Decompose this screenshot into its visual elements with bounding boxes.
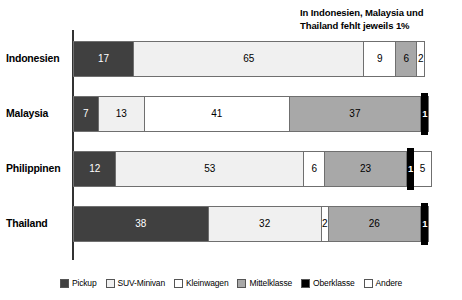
segment-value: 1 bbox=[422, 109, 427, 119]
segment-value: 5 bbox=[420, 164, 426, 174]
stacked-bar: 71341371 bbox=[73, 96, 429, 132]
segment-value: 23 bbox=[360, 164, 371, 174]
bar-segment-suv: 32 bbox=[209, 207, 322, 241]
bar-row-label: Philippinen bbox=[0, 148, 68, 188]
bar-segment-klein: 2 bbox=[322, 207, 329, 241]
stacked-bar: 38322261 bbox=[73, 206, 429, 242]
legend-label: Pickup bbox=[72, 278, 97, 288]
segment-value: 9 bbox=[377, 54, 383, 64]
chart-annotation: In Indonesien, Malaysia und Thailand feh… bbox=[300, 7, 460, 33]
stacked-bar: 125362315 bbox=[73, 151, 432, 187]
bar-segment-pickup: 38 bbox=[74, 207, 209, 241]
segment-value: 1 bbox=[422, 219, 427, 229]
stacked-bar-chart: In Indonesien, Malaysia und Thailand feh… bbox=[0, 0, 462, 300]
segment-value: 37 bbox=[349, 109, 360, 119]
bar-segment-pickup: 7 bbox=[74, 97, 99, 131]
legend-item-klein[interactable]: Kleinwagen bbox=[174, 278, 228, 288]
segment-value: 6 bbox=[311, 164, 317, 174]
segment-value: 2 bbox=[418, 54, 424, 64]
legend-item-mittel[interactable]: Mittelklasse bbox=[237, 278, 292, 288]
legend-item-andere[interactable]: Andere bbox=[364, 278, 403, 288]
legend-item-ober[interactable]: Oberklasse bbox=[301, 278, 355, 288]
bar-segment-ober: 1 bbox=[421, 203, 428, 245]
bar-row-label: Malaysia bbox=[0, 93, 68, 133]
legend-item-suv[interactable]: SUV-Minivan bbox=[106, 278, 165, 288]
legend-label: Mittelklasse bbox=[249, 278, 292, 288]
bar-row: Indonesien1765962 bbox=[0, 38, 462, 78]
chart-legend: PickupSUV-MinivanKleinwagenMittelklasseO… bbox=[0, 272, 462, 294]
legend-label: SUV-Minivan bbox=[118, 278, 165, 288]
bar-segment-mittel: 6 bbox=[396, 42, 417, 76]
segment-value: 38 bbox=[135, 219, 146, 229]
legend-swatch-andere-icon bbox=[364, 279, 373, 288]
bar-row: Philippinen125362315 bbox=[0, 148, 462, 188]
bar-segment-andere: 5 bbox=[414, 152, 432, 186]
bar-segment-ober: 1 bbox=[421, 93, 428, 135]
segment-value: 6 bbox=[403, 54, 409, 64]
bar-segment-klein: 41 bbox=[145, 97, 290, 131]
segment-value: 13 bbox=[116, 109, 127, 119]
bar-row-label: Thailand bbox=[0, 203, 68, 243]
segment-value: 1 bbox=[408, 164, 413, 174]
legend-label: Andere bbox=[376, 278, 403, 288]
bar-segment-mittel: 23 bbox=[325, 152, 406, 186]
bar-segment-suv: 13 bbox=[99, 97, 145, 131]
segment-value: 17 bbox=[98, 54, 109, 64]
segment-value: 65 bbox=[243, 54, 254, 64]
segment-value: 12 bbox=[89, 164, 100, 174]
bar-segment-andere: 2 bbox=[417, 42, 424, 76]
bar-segment-suv: 53 bbox=[116, 152, 304, 186]
segment-value: 7 bbox=[83, 109, 89, 119]
legend-swatch-klein-icon bbox=[174, 279, 183, 288]
bar-row-label: Indonesien bbox=[0, 38, 68, 78]
annotation-line-1: In Indonesien, Malaysia und bbox=[300, 7, 460, 20]
legend-swatch-mittel-icon bbox=[237, 279, 246, 288]
bar-segment-mittel: 26 bbox=[329, 207, 421, 241]
bar-segment-pickup: 12 bbox=[74, 152, 116, 186]
bar-segment-mittel: 37 bbox=[290, 97, 421, 131]
bar-row: Thailand38322261 bbox=[0, 203, 462, 243]
bar-segment-suv: 65 bbox=[134, 42, 364, 76]
legend-label: Oberklasse bbox=[313, 278, 355, 288]
legend-swatch-pickup-icon bbox=[60, 279, 69, 288]
segment-value: 32 bbox=[259, 219, 270, 229]
bar-segment-pickup: 17 bbox=[74, 42, 134, 76]
segment-value: 53 bbox=[204, 164, 215, 174]
legend-item-pickup[interactable]: Pickup bbox=[60, 278, 97, 288]
stacked-bar: 1765962 bbox=[73, 41, 425, 77]
plot-area: Indonesien1765962Malaysia71341371Philipp… bbox=[0, 30, 462, 262]
bar-segment-ober: 1 bbox=[407, 148, 414, 190]
legend-label: Kleinwagen bbox=[186, 278, 228, 288]
bar-segment-klein: 9 bbox=[364, 42, 396, 76]
legend-swatch-ober-icon bbox=[301, 279, 310, 288]
legend-swatch-suv-icon bbox=[106, 279, 115, 288]
segment-value: 2 bbox=[322, 219, 328, 229]
segment-value: 26 bbox=[369, 219, 380, 229]
bar-row: Malaysia71341371 bbox=[0, 93, 462, 133]
bar-segment-klein: 6 bbox=[304, 152, 325, 186]
segment-value: 41 bbox=[211, 109, 222, 119]
